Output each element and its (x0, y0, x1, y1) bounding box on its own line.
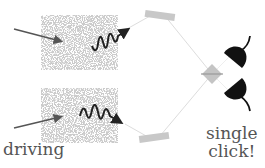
upper-mirror-to-splitter (165, 16, 212, 74)
single-click-line2: click! (206, 142, 258, 160)
single-click-line1: single (206, 124, 258, 142)
single-click-label: single click! (206, 124, 258, 160)
driving-label: driving (3, 140, 64, 158)
beam-splitter (201, 64, 223, 84)
upper-beam-to-mirror (125, 16, 150, 30)
upper-detector (224, 36, 250, 68)
lower-beam-to-mirror (125, 124, 148, 137)
lower-mirror (139, 132, 170, 143)
upper-crystal (41, 15, 118, 70)
upper-mirror (145, 10, 176, 21)
lower-mirror-to-splitter (160, 74, 212, 136)
lower-detector (224, 78, 250, 111)
